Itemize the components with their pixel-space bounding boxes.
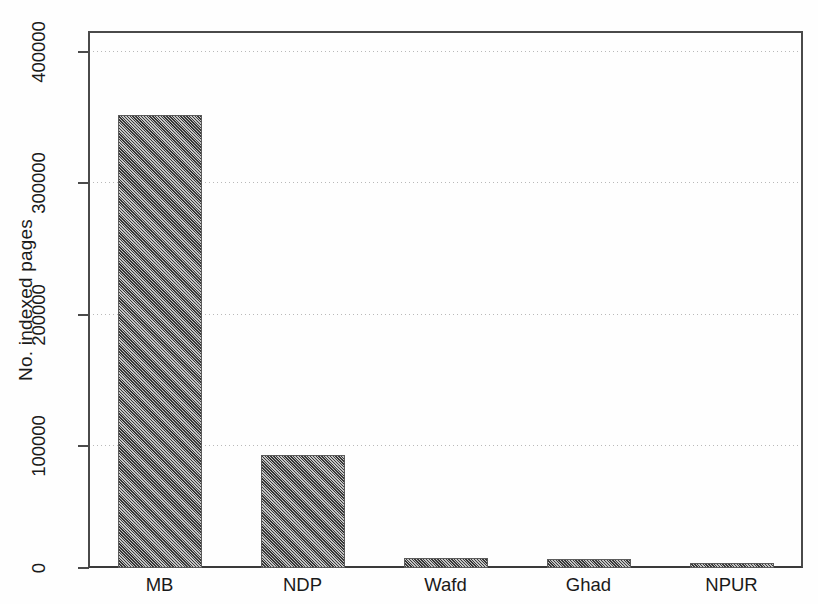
y-tick-label-400000: 400000 — [0, 43, 78, 61]
bar-MB[interactable] — [118, 115, 202, 568]
bar-NDP[interactable] — [261, 455, 345, 568]
y-tick-text: 200000 — [28, 284, 50, 346]
bar-Wafd[interactable] — [404, 558, 488, 568]
y-tick-text: 300000 — [28, 152, 50, 214]
y-tick-text: 0 — [28, 563, 50, 573]
y-tick-text: 400000 — [28, 21, 50, 83]
x-tick-label-Wafd: Wafd — [374, 574, 517, 596]
bar-series — [88, 31, 803, 568]
y-tick-text: 100000 — [28, 415, 50, 477]
x-tick-label-NPUR: NPUR — [660, 574, 803, 596]
x-tick-label-MB: MB — [88, 574, 231, 596]
y-tick-label-300000: 300000 — [0, 174, 78, 192]
y-tick-label-100000: 100000 — [0, 437, 78, 455]
x-tick-label-NDP: NDP — [231, 574, 374, 596]
x-tick-label-Ghad: Ghad — [517, 574, 660, 596]
bar-chart-figure: No. indexed pages 400000 300000 200000 1… — [0, 0, 818, 604]
y-tick-label-200000: 200000 — [0, 306, 78, 324]
bar-Ghad[interactable] — [547, 559, 631, 568]
y-tick-label-0: 0 — [0, 559, 78, 577]
bar-NPUR[interactable] — [690, 563, 774, 568]
